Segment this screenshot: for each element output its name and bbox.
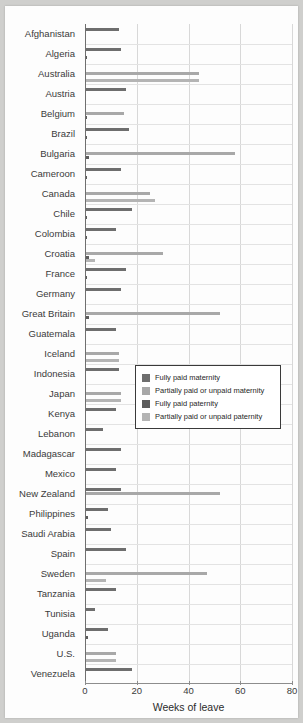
- bar-group: [85, 544, 292, 564]
- bar-fully-paid-maternity: [85, 508, 108, 511]
- bar-group: [85, 164, 292, 184]
- bar-fully-paid-maternity: [85, 548, 126, 551]
- bar-group: [85, 444, 292, 464]
- bar-group: [85, 524, 292, 544]
- legend-item-fully-paid-maternity: Fully paid maternity: [142, 371, 275, 384]
- y-axis-label: Saudi Arabia: [21, 529, 75, 539]
- bar-group: [85, 484, 292, 504]
- y-axis-label: France: [45, 269, 75, 279]
- y-axis-label: Spain: [51, 549, 75, 559]
- legend-label: Partially paid or unpaid maternity: [155, 386, 264, 395]
- bar-group: [85, 284, 292, 304]
- bar-group: [85, 64, 292, 84]
- bar-fully-paid-maternity: [85, 288, 121, 291]
- bar-group: [85, 124, 292, 144]
- chart-legend: Fully paid maternity Partially paid or u…: [135, 365, 281, 429]
- bar-group: [85, 324, 292, 344]
- bar-group: [85, 44, 292, 64]
- y-axis-label: Tunisia: [45, 609, 75, 619]
- bar-fully-paid-maternity: [85, 528, 111, 531]
- vertical-gridline: [292, 24, 293, 684]
- bar-partial-paternity: [85, 399, 121, 402]
- bar-partial-maternity: [85, 392, 121, 395]
- bar-group: [85, 584, 292, 604]
- y-axis-label: Great Britain: [22, 309, 75, 319]
- bar-partial-paternity: [85, 579, 106, 582]
- y-axis-label: Iceland: [44, 349, 75, 359]
- bar-fully-paid-maternity: [85, 328, 116, 331]
- bar-partial-maternity: [85, 652, 116, 655]
- legend-item-partial-paternity: Partially paid or unpaid paternity: [142, 410, 275, 423]
- y-axis-label: Belgium: [41, 109, 75, 119]
- bar-fully-paid-maternity: [85, 488, 121, 491]
- chart-card: AfghanistanAlgeriaAustraliaAustriaBelgiu…: [5, 6, 298, 718]
- legend-label: Partially paid or unpaid paternity: [155, 412, 262, 421]
- y-axis-label: Germany: [36, 289, 75, 299]
- legend-swatch-icon: [142, 413, 150, 421]
- bar-group: [85, 644, 292, 664]
- bar-series-layer: [85, 24, 292, 684]
- bar-partial-maternity: [85, 112, 124, 115]
- y-axis-label: Mexico: [45, 469, 75, 479]
- bar-partial-maternity: [85, 252, 163, 255]
- y-axis-label: Indonesia: [34, 369, 75, 379]
- bar-partial-paternity: [85, 359, 119, 362]
- legend-swatch-icon: [142, 374, 150, 382]
- y-axis-label: Tanzania: [37, 589, 75, 599]
- bar-partial-paternity: [85, 659, 116, 662]
- plot-area: [85, 24, 292, 684]
- bar-partial-maternity: [85, 192, 150, 195]
- x-axis-tick-label: 40: [183, 685, 194, 696]
- bar-fully-paid-maternity: [85, 468, 116, 471]
- bar-group: [85, 244, 292, 264]
- y-axis-label: Lebanon: [38, 429, 75, 439]
- bar-fully-paid-maternity: [85, 128, 129, 131]
- x-axis-tick-labels: 020406080: [85, 685, 292, 699]
- bar-fully-paid-maternity: [85, 228, 116, 231]
- y-axis-label: Philippines: [29, 509, 75, 519]
- legend-swatch-icon: [142, 400, 150, 408]
- bar-fully-paid-maternity: [85, 448, 121, 451]
- y-axis-label: Guatemala: [29, 329, 75, 339]
- bar-group: [85, 344, 292, 364]
- y-axis-label: Cameroon: [31, 169, 75, 179]
- y-axis-label: Bulgaria: [40, 149, 75, 159]
- bar-group: [85, 464, 292, 484]
- bar-partial-paternity: [85, 199, 155, 202]
- x-axis-tick-label: 60: [235, 685, 246, 696]
- bar-fully-paid-maternity: [85, 88, 126, 91]
- bar-fully-paid-maternity: [85, 268, 126, 271]
- bar-group: [85, 84, 292, 104]
- y-axis-label: Croatia: [44, 249, 75, 259]
- y-axis-label: U.S.: [57, 649, 75, 659]
- bar-partial-maternity: [85, 72, 199, 75]
- bar-partial-paternity: [85, 259, 95, 262]
- x-axis-tick-label: 0: [82, 685, 87, 696]
- y-axis-label: Chile: [53, 209, 75, 219]
- y-axis-label: Uganda: [42, 629, 75, 639]
- bar-fully-paid-maternity: [85, 28, 119, 31]
- y-axis-line: [85, 24, 86, 684]
- x-axis-tick-label: 80: [287, 685, 298, 696]
- legend-swatch-icon: [142, 387, 150, 395]
- legend-item-fully-paid-paternity: Fully paid paternity: [142, 397, 275, 410]
- bar-group: [85, 504, 292, 524]
- y-axis-label: Colombia: [35, 229, 75, 239]
- bar-group: [85, 264, 292, 284]
- bar-fully-paid-maternity: [85, 608, 95, 611]
- bar-fully-paid-maternity: [85, 628, 108, 631]
- bar-group: [85, 224, 292, 244]
- x-axis-tick-label: 20: [131, 685, 142, 696]
- y-axis-label: Venezuela: [31, 669, 75, 679]
- bar-fully-paid-maternity: [85, 208, 132, 211]
- bar-partial-maternity: [85, 492, 220, 495]
- y-axis-label: Canada: [42, 189, 75, 199]
- legend-item-partial-maternity: Partially paid or unpaid maternity: [142, 384, 275, 397]
- y-axis-label: Austria: [45, 89, 75, 99]
- legend-label: Fully paid paternity: [155, 399, 218, 408]
- y-axis-label: Madagascar: [23, 449, 75, 459]
- bar-partial-maternity: [85, 312, 220, 315]
- bar-group: [85, 24, 292, 44]
- y-axis-label: Australia: [38, 69, 75, 79]
- y-axis-label: Kenya: [48, 409, 75, 419]
